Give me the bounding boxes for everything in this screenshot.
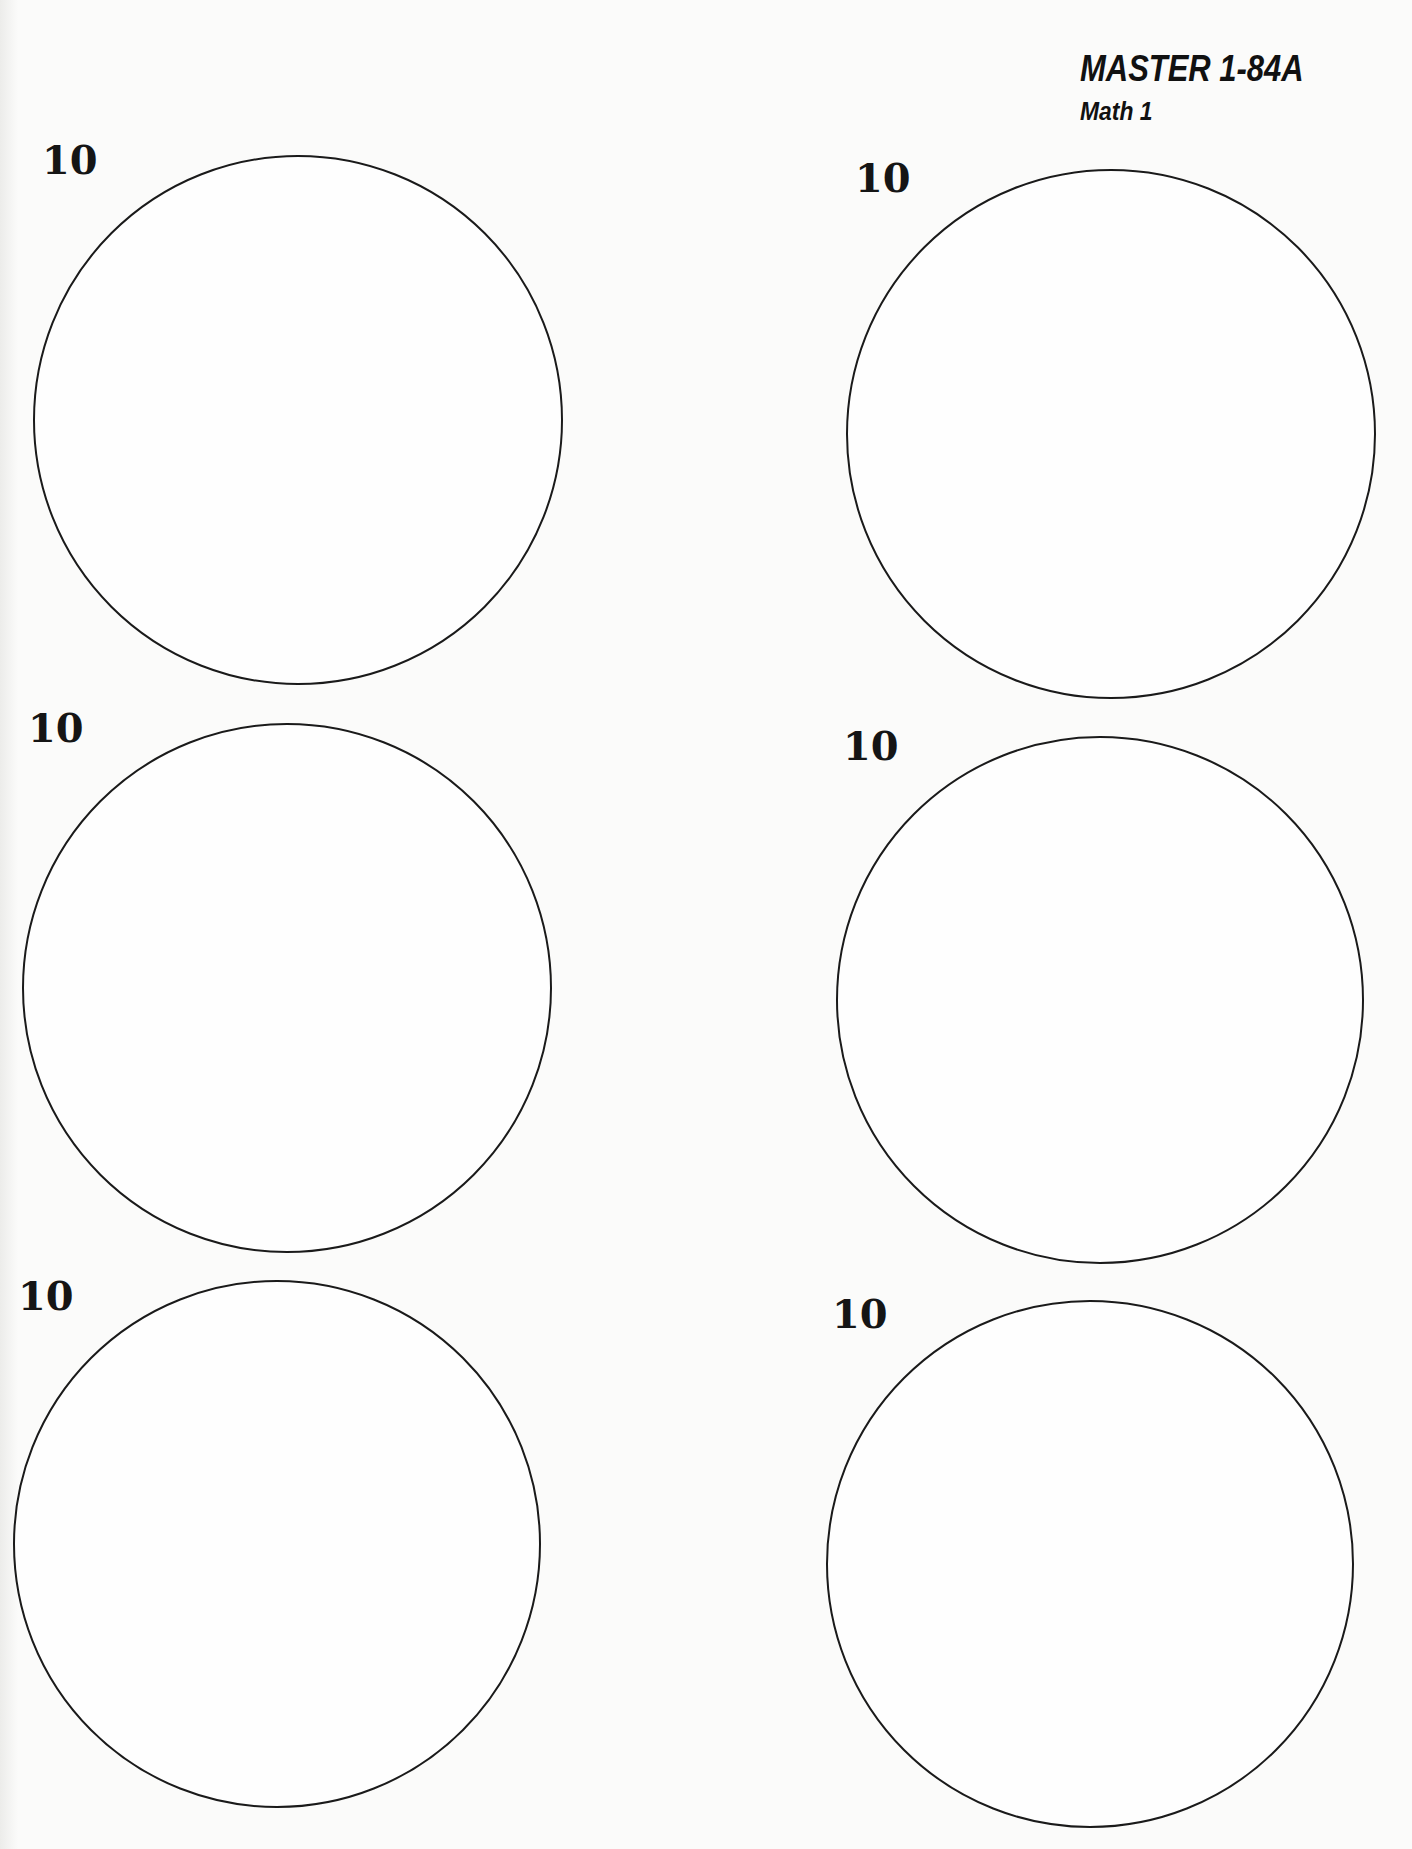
circle-label-5: 10 (18, 1276, 74, 1316)
circle-label-3: 10 (28, 708, 84, 748)
fraction-circle-3 (22, 723, 552, 1253)
fraction-circle-4 (836, 736, 1364, 1264)
circle-label-2: 10 (855, 158, 911, 198)
circle-label-6: 10 (832, 1294, 888, 1334)
fraction-circle-6 (826, 1300, 1354, 1828)
worksheet-header: MASTER 1-84A Math 1 (1080, 48, 1340, 126)
subject-label: Math 1 (1080, 96, 1309, 126)
fraction-circle-5 (13, 1280, 541, 1808)
fraction-circle-2 (846, 169, 1376, 699)
circle-label-1: 10 (42, 140, 98, 180)
master-code: MASTER 1-84A (1080, 48, 1304, 90)
circle-label-4: 10 (843, 726, 899, 766)
fraction-circle-1 (33, 155, 563, 685)
